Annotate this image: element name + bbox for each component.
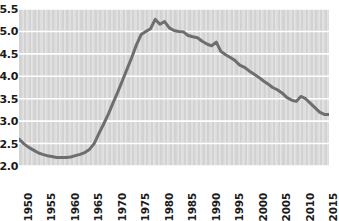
- x-tick-label: 1955: [46, 193, 57, 221]
- y-tick-label: 5.5: [0, 4, 18, 15]
- x-tick-label: 1995: [234, 193, 245, 221]
- y-tick-label: 4.5: [0, 48, 18, 59]
- x-tick-label: 2010: [305, 193, 316, 221]
- y-axis: 2.02.53.03.54.04.55.05.5: [0, 0, 19, 194]
- y-tick-label: 5.0: [0, 26, 18, 37]
- y-tick-label: 3.0: [0, 116, 18, 127]
- x-tick-label: 1980: [164, 193, 175, 221]
- y-tick-label: 2.5: [0, 138, 18, 149]
- y-tick-label: 2.0: [0, 161, 18, 172]
- x-tick-label: 1975: [140, 193, 151, 221]
- x-tick-label: 1960: [70, 193, 81, 221]
- x-tick-label: 2005: [281, 193, 292, 221]
- x-tick-label: 1985: [187, 193, 198, 221]
- chart-canvas: [19, 9, 329, 166]
- x-tick-label: 2000: [258, 193, 269, 221]
- x-tick-label: 1990: [211, 193, 222, 221]
- x-tick-label: 2015: [328, 193, 339, 221]
- plot-area: [19, 9, 329, 166]
- x-axis: 1950195519601965197019751980198519901995…: [19, 167, 329, 194]
- y-tick-label: 3.5: [0, 93, 18, 104]
- x-tick-label: 1965: [93, 193, 104, 221]
- y-tick-label: 4.0: [0, 71, 18, 82]
- x-tick-label: 1970: [117, 193, 128, 221]
- x-tick-label: 1950: [23, 193, 34, 221]
- year-bands: [19, 9, 329, 166]
